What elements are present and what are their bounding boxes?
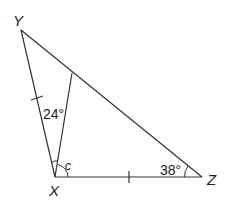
- diagram-canvas: Y X Z 24° c 38°: [0, 0, 226, 208]
- vertex-label-z: Z: [206, 171, 217, 188]
- side-xy: [21, 30, 55, 177]
- angle-arc-38: [184, 166, 188, 177]
- angle-arc-24: [52, 161, 58, 163]
- angle-label-c: c: [65, 159, 71, 173]
- triangle-diagram: Y X Z 24° c 38°: [0, 0, 226, 208]
- angle-label-38: 38°: [160, 162, 181, 178]
- angle-label-24: 24°: [43, 106, 64, 122]
- side-yz: [21, 30, 202, 177]
- vertex-label-y: Y: [13, 12, 24, 29]
- vertex-label-x: X: [48, 182, 60, 199]
